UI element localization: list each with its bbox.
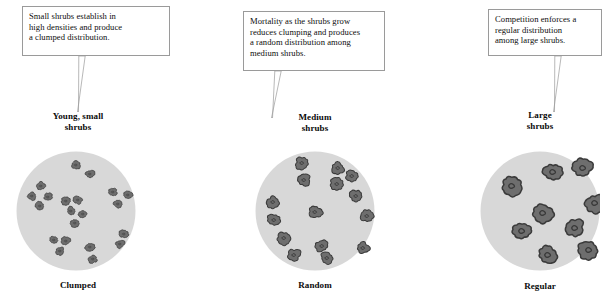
size-class-label-line: Medium bbox=[245, 112, 385, 123]
callout-line: Mortality as the shrubs grow bbox=[250, 16, 378, 27]
size-class-label-line: Large bbox=[470, 110, 610, 121]
callout-line: a clumped distribution. bbox=[29, 32, 163, 43]
shrub-marker bbox=[61, 197, 70, 206]
callout-line: Small shrubs establish in bbox=[29, 11, 163, 22]
callout-line: medium shrubs. bbox=[250, 48, 378, 59]
pattern-label-regular: Regular bbox=[470, 281, 610, 291]
callout-box-regular: Competition enforces aregular distributi… bbox=[488, 9, 602, 56]
shrub-marker bbox=[578, 242, 598, 260]
size-class-label-random: Mediumshrubs bbox=[245, 112, 385, 134]
callout-box-random: Mortality as the shrubs growreduces clum… bbox=[243, 11, 385, 71]
callout-line: a random distribution among bbox=[250, 37, 378, 48]
shrub-marker bbox=[50, 236, 58, 243]
shrub-marker bbox=[56, 247, 64, 256]
shrub-marker bbox=[502, 176, 522, 197]
quadrat-circle-random bbox=[255, 151, 375, 271]
pattern-label-random: Random bbox=[245, 280, 385, 290]
size-class-label-line: shrubs bbox=[245, 123, 385, 134]
shrub-marker bbox=[78, 211, 87, 218]
shrub-marker bbox=[70, 220, 79, 228]
callout-line: reduces clumping and produces bbox=[250, 27, 378, 38]
size-class-label-clumped: Young, smallshrubs bbox=[8, 111, 148, 133]
callout-line: regular distribution bbox=[495, 25, 595, 36]
callout-line: among large shrubs. bbox=[495, 35, 595, 46]
callout-pointer-regular bbox=[547, 56, 569, 112]
quadrat-circle-clumped bbox=[16, 151, 136, 271]
size-class-label-line: shrubs bbox=[470, 121, 610, 132]
quadrat-circle-regular bbox=[480, 151, 600, 271]
callout-pointer-clumped bbox=[71, 56, 93, 112]
shrub-marker bbox=[109, 188, 118, 196]
callout-line: high densities and produce bbox=[29, 22, 163, 33]
size-class-label-line: Young, small bbox=[8, 111, 148, 122]
callout-pointer-random bbox=[267, 71, 289, 118]
size-class-label-line: shrubs bbox=[8, 122, 148, 133]
shrub-distribution-figure: Small shrubs establish inhigh densities … bbox=[0, 0, 610, 302]
callout-line: Competition enforces a bbox=[495, 14, 595, 25]
pattern-label-clumped: Clumped bbox=[8, 280, 148, 290]
size-class-label-regular: Largeshrubs bbox=[470, 110, 610, 132]
shrub-marker bbox=[44, 193, 53, 201]
callout-box-clumped: Small shrubs establish inhigh densities … bbox=[22, 6, 170, 56]
